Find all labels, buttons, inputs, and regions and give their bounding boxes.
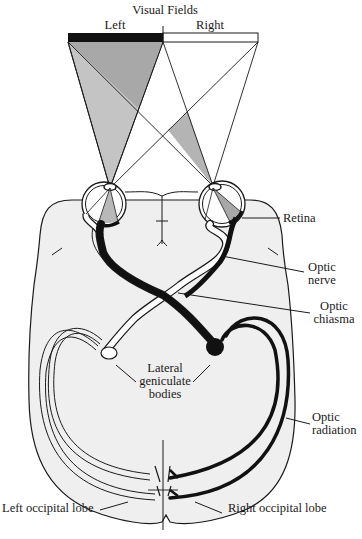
lgb-label-line3: bodies <box>130 388 200 401</box>
retina-label: Retina <box>283 212 316 225</box>
optic-chiasma-label: Optic chiasma <box>306 300 362 326</box>
left-field-label: Left <box>90 19 140 32</box>
optic-nerve-label-line2: nerve <box>298 274 346 287</box>
right-visual-field-bar <box>163 33 258 42</box>
right-occipital-lobe-label: Right occipital lobe <box>228 502 327 515</box>
lateral-geniculate-label: Lateral geniculate bodies <box>130 362 200 401</box>
right-eye <box>199 181 245 227</box>
right-field-label: Right <box>185 19 235 32</box>
left-occipital-lobe-label: Left occipital lobe <box>2 502 94 515</box>
optic-radiation-label: Optic radiation <box>312 411 356 437</box>
diagram-title: Visual Fields <box>120 4 210 17</box>
left-lgb <box>101 347 117 359</box>
optic-radiation-label-line2: radiation <box>312 424 356 437</box>
optic-nerve-label: Optic nerve <box>298 261 346 287</box>
optic-chiasma-label-line2: chiasma <box>306 313 362 326</box>
left-field-cone-right-eye <box>168 112 213 186</box>
left-visual-field-bar <box>68 33 163 42</box>
